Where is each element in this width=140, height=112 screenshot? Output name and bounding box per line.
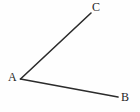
angle-diagram-canvas: A B C [0, 0, 140, 112]
ray-a-to-b [21, 79, 119, 97]
point-label-b: B [121, 91, 129, 103]
point-label-c: C [92, 1, 100, 13]
ray-a-to-c [21, 13, 92, 79]
angle-diagram-svg [0, 0, 140, 112]
point-label-a: A [8, 71, 17, 83]
